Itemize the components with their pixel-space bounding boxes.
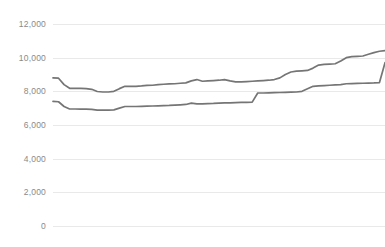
series-line (53, 51, 385, 92)
y-tick-label: 0 (41, 221, 46, 231)
plot-area (53, 0, 385, 247)
series-line (53, 63, 385, 110)
y-tick-label: 6,000 (24, 120, 46, 130)
y-tick-label: 8,000 (24, 86, 46, 96)
series-layer (53, 0, 385, 247)
y-tick-label: 12,000 (19, 19, 46, 29)
y-tick-label: 10,000 (19, 53, 46, 63)
line-chart: 02,0004,0006,0008,00010,00012,000 (0, 0, 385, 247)
y-tick-label: 2,000 (24, 187, 46, 197)
y-axis: 02,0004,0006,0008,00010,00012,000 (0, 0, 50, 247)
y-tick-label: 4,000 (24, 154, 46, 164)
